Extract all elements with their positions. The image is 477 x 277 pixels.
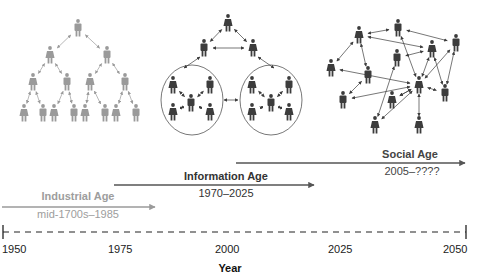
person-icon bbox=[365, 66, 372, 83]
connection-arrow bbox=[428, 88, 437, 91]
tick-label-1950: 1950 bbox=[2, 244, 26, 255]
connection-arrow bbox=[58, 91, 63, 104]
person-icon bbox=[169, 103, 178, 120]
connection-arrow bbox=[340, 70, 410, 84]
connection-arrow bbox=[368, 37, 423, 48]
connection-arrow bbox=[36, 92, 40, 104]
connection-arrow bbox=[87, 92, 89, 103]
tick-label-2025: 2025 bbox=[328, 244, 352, 255]
tick-label-1975: 1975 bbox=[108, 244, 132, 255]
connection-arrow bbox=[38, 63, 44, 73]
person-icon bbox=[395, 19, 402, 36]
social-age-title: Social Age bbox=[382, 149, 438, 160]
connection-arrow bbox=[382, 91, 413, 119]
person-icon bbox=[415, 76, 424, 93]
connection-arrow bbox=[85, 35, 99, 48]
person-icon bbox=[268, 94, 275, 111]
person-icon bbox=[286, 76, 293, 93]
person-icon bbox=[340, 91, 347, 108]
connection-arrow bbox=[119, 92, 122, 104]
connection-arrow bbox=[234, 29, 246, 41]
person-icon bbox=[453, 34, 460, 51]
connection-arrow bbox=[361, 44, 366, 66]
person-icon bbox=[285, 103, 294, 120]
person-icon bbox=[104, 46, 111, 63]
person-icon bbox=[207, 76, 214, 93]
connection-arrow bbox=[401, 36, 416, 76]
person-icon bbox=[188, 94, 195, 111]
connection-arrow bbox=[184, 57, 200, 68]
person-icon bbox=[355, 26, 364, 43]
person-icon bbox=[249, 39, 258, 56]
person-icon bbox=[29, 73, 38, 90]
person-icon bbox=[20, 104, 29, 121]
social-mesh-network bbox=[327, 19, 460, 133]
connection-arrow bbox=[259, 91, 265, 97]
connection-arrow bbox=[400, 89, 411, 95]
person-icon bbox=[81, 104, 90, 121]
connection-arrow bbox=[55, 63, 61, 73]
connection-arrow bbox=[435, 58, 443, 85]
connection-arrow bbox=[181, 107, 183, 108]
axis-title: Year bbox=[218, 263, 241, 274]
person-icon bbox=[248, 103, 257, 120]
person-icon bbox=[169, 76, 178, 93]
connection-arrow bbox=[199, 107, 202, 108]
connection-arrow bbox=[352, 87, 410, 99]
information-age-range: 1970–2025 bbox=[198, 188, 253, 199]
connection-arrow bbox=[179, 91, 184, 96]
connection-arrow bbox=[210, 29, 222, 41]
information-cluster-network bbox=[161, 14, 302, 135]
industrial-age-title: Industrial Age bbox=[42, 191, 115, 202]
connection-arrow bbox=[277, 91, 282, 96]
person-icon bbox=[50, 104, 59, 121]
person-icon bbox=[206, 103, 215, 120]
person-icon bbox=[133, 104, 140, 121]
person-icon bbox=[102, 104, 109, 121]
connection-arrow bbox=[422, 57, 429, 76]
information-age-title: Information Age bbox=[184, 171, 268, 182]
person-icon bbox=[428, 40, 437, 57]
person-icon bbox=[75, 19, 82, 36]
connection-arrow bbox=[447, 52, 454, 84]
year-axis bbox=[3, 225, 466, 239]
person-icon bbox=[40, 104, 47, 121]
connection-arrow bbox=[198, 91, 204, 97]
connection-arrow bbox=[128, 91, 132, 103]
connection-arrow bbox=[94, 91, 100, 104]
person-icon bbox=[327, 59, 336, 76]
tick-label-2050: 2050 bbox=[443, 244, 467, 255]
connection-arrow bbox=[349, 81, 361, 93]
connection-arrow bbox=[69, 92, 72, 103]
person-icon bbox=[224, 14, 233, 31]
social-age-range: 2005–???? bbox=[384, 166, 439, 177]
industrial-age-range: mid-1700s–1985 bbox=[37, 209, 119, 220]
person-icon bbox=[248, 76, 257, 93]
person-icon bbox=[394, 49, 401, 66]
connection-arrow bbox=[260, 107, 263, 108]
connection-arrow bbox=[279, 107, 281, 108]
person-icon bbox=[46, 46, 55, 63]
person-icon bbox=[415, 116, 424, 133]
connection-arrow bbox=[406, 51, 424, 56]
connection-arrow bbox=[27, 92, 30, 104]
connection-arrow bbox=[95, 63, 101, 73]
person-icon bbox=[442, 84, 449, 101]
person-icon bbox=[122, 73, 129, 90]
ages-diagram bbox=[0, 0, 477, 277]
connection-arrow bbox=[113, 63, 120, 73]
person-icon bbox=[112, 104, 121, 121]
tick-label-2000: 2000 bbox=[215, 244, 239, 255]
industrial-hierarchy-network bbox=[20, 19, 140, 121]
connection-arrow bbox=[57, 35, 71, 48]
connection-arrow bbox=[337, 42, 353, 61]
person-icon bbox=[388, 91, 397, 108]
connection-arrow bbox=[368, 30, 389, 34]
connection-arrow bbox=[425, 50, 450, 78]
person-icon bbox=[371, 116, 380, 133]
person-icon bbox=[71, 104, 78, 121]
person-icon bbox=[64, 73, 71, 90]
connection-arrow bbox=[407, 30, 448, 40]
person-icon bbox=[201, 39, 208, 56]
connection-arrow bbox=[258, 57, 274, 68]
